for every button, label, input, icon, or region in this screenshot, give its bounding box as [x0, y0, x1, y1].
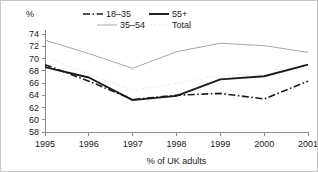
- x-tick-label-1996: 1996: [79, 139, 99, 149]
- x-tick-label-2000: 2000: [254, 139, 274, 149]
- x-tick-label-2001: 2001: [298, 139, 317, 149]
- y-tick-label-72: 72: [29, 41, 39, 51]
- legend-label-total: Total: [172, 20, 191, 30]
- y-tick-label-74: 74: [29, 29, 39, 39]
- x-axis-title: % of UK adults: [147, 156, 207, 166]
- series-line-18-35: [45, 65, 308, 100]
- legend: 18–35 55+ 35–54 Total: [83, 9, 191, 30]
- series-lines: [45, 40, 308, 100]
- legend-label-55plus: 55+: [172, 9, 187, 19]
- line-chart: 18–35 55+ 35–54 Total % 5860626466687072…: [1, 1, 317, 171]
- y-tick-label-70: 70: [29, 54, 39, 64]
- y-tick-label-68: 68: [29, 66, 39, 76]
- y-tick-label-60: 60: [29, 115, 39, 125]
- series-line-35-54: [45, 40, 308, 68]
- legend-label-35-54: 35–54: [120, 20, 145, 30]
- series-line-total: [45, 57, 308, 91]
- x-tick-label-1995: 1995: [35, 139, 55, 149]
- y-tick-label-66: 66: [29, 78, 39, 88]
- y-axis-ticks: 586062646668707274: [29, 29, 45, 137]
- chart-container: 18–35 55+ 35–54 Total % 5860626466687072…: [0, 0, 318, 172]
- y-axis-unit-label: %: [26, 9, 34, 19]
- y-tick-label-64: 64: [29, 90, 39, 100]
- legend-label-18-35: 18–35: [106, 9, 131, 19]
- y-tick-label-62: 62: [29, 103, 39, 113]
- x-tick-label-1998: 1998: [166, 139, 186, 149]
- x-tick-label-1999: 1999: [210, 139, 230, 149]
- x-axis-ticks: 1995199619971998199920002001: [35, 132, 317, 149]
- y-tick-label-58: 58: [29, 127, 39, 137]
- x-tick-label-1997: 1997: [123, 139, 143, 149]
